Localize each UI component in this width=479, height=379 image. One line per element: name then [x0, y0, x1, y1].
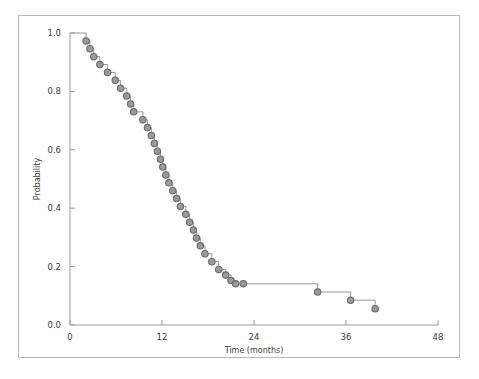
event-marker [216, 266, 222, 272]
event-marker [127, 101, 133, 107]
x-tick-label: 24 [249, 332, 260, 342]
event-marker [173, 195, 179, 201]
event-marker [87, 46, 93, 52]
event-marker [154, 148, 160, 154]
event-marker [197, 243, 203, 249]
event-marker [170, 187, 176, 193]
survival-curve-line [70, 33, 375, 309]
y-tick-label: 0.2 [47, 262, 61, 272]
survival-chart: 012243648 0.00.20.40.60.81.0 Time (month… [0, 0, 479, 379]
event-marker [104, 69, 110, 75]
event-marker [144, 124, 150, 130]
event-marker [222, 272, 228, 278]
event-marker [372, 305, 378, 311]
event-marker [232, 281, 238, 287]
event-markers [83, 38, 378, 312]
event-marker [157, 156, 163, 162]
y-axis-tick-labels: 0.00.20.40.60.81.0 [47, 28, 61, 330]
event-marker [112, 77, 118, 83]
event-marker [177, 203, 183, 209]
x-tick-label: 12 [157, 332, 168, 342]
event-marker [117, 85, 123, 91]
event-marker [148, 132, 154, 138]
event-marker [240, 281, 246, 287]
y-tick-label: 0.6 [47, 145, 61, 155]
event-marker [183, 211, 189, 217]
event-marker [209, 258, 215, 264]
x-axis-label: Time (months) [224, 346, 284, 355]
event-marker [186, 219, 192, 225]
y-tick-label: 1.0 [47, 28, 61, 38]
y-tick-label: 0.0 [47, 320, 61, 330]
x-tick-label: 48 [433, 332, 444, 342]
event-marker [166, 180, 172, 186]
event-marker [190, 227, 196, 233]
event-marker [97, 61, 103, 67]
event-marker [83, 38, 89, 44]
event-marker [130, 109, 136, 115]
event-marker [124, 93, 130, 99]
event-marker [347, 297, 353, 303]
event-marker [163, 172, 169, 178]
y-tick-label: 0.4 [47, 203, 61, 213]
event-marker [140, 117, 146, 123]
y-axis-label: Probability [33, 158, 42, 201]
x-tick-label: 36 [341, 332, 352, 342]
y-tick-label: 0.8 [47, 86, 61, 96]
chart-axes [70, 33, 438, 325]
event-marker [202, 251, 208, 257]
event-marker [160, 164, 166, 170]
x-tick-label: 0 [67, 332, 72, 342]
x-axis-tick-labels: 012243648 [67, 332, 443, 342]
event-marker [314, 289, 320, 295]
event-marker [91, 53, 97, 59]
event-marker [193, 235, 199, 241]
axis-ticks [70, 33, 438, 325]
event-marker [151, 140, 157, 146]
